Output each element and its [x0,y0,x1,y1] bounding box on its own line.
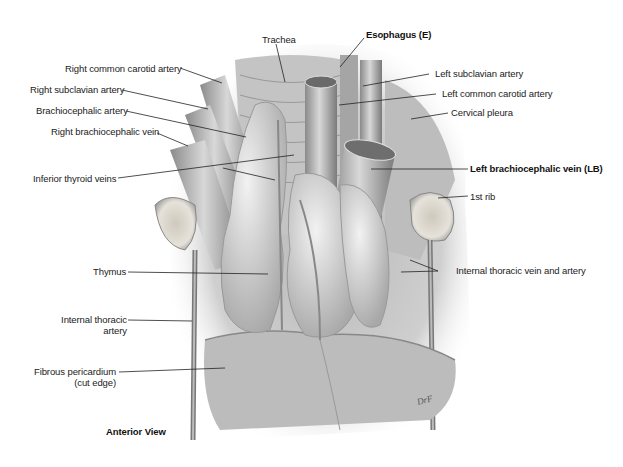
label-inferior-thyroid-veins: Inferior thyroid veins [33,173,116,184]
label-left-common-carotid-artery: Left common carotid artery [442,88,552,99]
label-thymus: Thymus [93,266,126,277]
label-right-brachiocephalic-vein: Right brachiocephalic vein [51,126,159,137]
label-internal-thoracic-vein-and-artery: Internal thoracic vein and artery [456,265,586,276]
label-left-subclavian-artery: Left subclavian artery [435,68,523,79]
label-fibrous-pericardium: Fibrous pericardium (cut edge) [30,366,116,388]
label-trachea: Trachea [262,34,296,45]
label-right-subclavian-artery: Right subclavian artery [30,84,124,95]
label-esophagus: Esophagus (E) [366,29,431,40]
heart-pericardium [204,331,456,430]
label-left-brachiocephalic-vein: Left brachiocephalic vein (LB) [470,163,603,174]
label-brachiocephalic-artery: Brachiocephalic artery [36,105,128,116]
label-first-rib: 1st rib [470,191,495,202]
label-right-common-carotid-artery: Right common carotid artery [65,63,182,74]
label-internal-thoracic-artery: Internal thoracic artery [58,314,127,336]
label-internal-thoracic-artery-line1: Internal thoracic [58,314,127,325]
label-cervical-pleura: Cervical pleura [451,107,513,118]
label-internal-thoracic-artery-line2: artery [58,325,127,336]
label-fibrous-pericardium-line1: Fibrous pericardium [30,366,116,377]
view-caption: Anterior View [106,426,166,437]
label-fibrous-pericardium-line2: (cut edge) [30,377,116,388]
